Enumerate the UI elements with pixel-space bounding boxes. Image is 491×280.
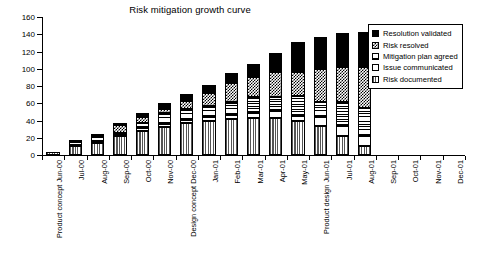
bar-segment[interactable] (136, 117, 149, 123)
bar-segment[interactable] (314, 102, 327, 117)
bar-segment[interactable] (69, 146, 82, 155)
bar-segment[interactable] (291, 72, 304, 96)
bar-segment[interactable] (247, 64, 260, 76)
legend-item[interactable]: Risk documented (372, 74, 458, 85)
x-axis-tick-label: Mar-01 (257, 160, 264, 183)
bar-segment[interactable] (269, 111, 282, 118)
bar-segment[interactable] (247, 77, 260, 98)
bar[interactable] (69, 141, 82, 155)
bar-segment[interactable] (136, 123, 149, 128)
bar-segment[interactable] (180, 94, 193, 101)
bar[interactable] (180, 94, 193, 155)
bar-segment[interactable] (113, 136, 126, 155)
bar-segment[interactable] (336, 33, 349, 67)
bar[interactable] (158, 103, 171, 155)
bar-segment[interactable] (91, 134, 104, 136)
bar-segment[interactable] (202, 93, 215, 106)
bar[interactable] (336, 33, 349, 155)
bar-segment[interactable] (225, 73, 238, 83)
x-axis-tick-label: Jan-01 (212, 160, 219, 183)
bar-segment[interactable] (291, 42, 304, 72)
bar[interactable] (136, 113, 149, 155)
bar-segment[interactable] (180, 123, 193, 155)
bar-segment[interactable] (158, 103, 171, 109)
bar-segment[interactable] (136, 128, 149, 131)
bar[interactable] (91, 135, 104, 155)
bar-segment[interactable] (225, 83, 238, 101)
bar-segment[interactable] (113, 123, 126, 125)
bar-segment[interactable] (180, 101, 193, 110)
bar-segment[interactable] (69, 142, 82, 145)
x-axis-tick-label: Nov-00 (167, 160, 174, 184)
x-axis-labels: Product concept Jun-00Jul-00Aug-00Sep-00… (42, 160, 465, 278)
bar-segment[interactable] (158, 113, 171, 124)
x-axis-tick (465, 156, 466, 160)
bar[interactable] (269, 53, 282, 155)
bar-segment[interactable] (158, 109, 171, 112)
bar-segment[interactable] (225, 119, 238, 155)
legend-label: Issue communicated (383, 63, 453, 72)
legend-swatch (372, 76, 379, 83)
bar-segment[interactable] (358, 136, 371, 145)
bar-segment[interactable] (136, 131, 149, 155)
x-axis-tick-label: May-01 (301, 160, 308, 185)
bar-segment[interactable] (202, 85, 215, 93)
bar[interactable] (247, 64, 260, 155)
bar-segment[interactable] (247, 118, 260, 155)
bar[interactable] (46, 152, 59, 155)
bar[interactable] (291, 42, 304, 155)
bar-segment[interactable] (202, 121, 215, 156)
x-axis-tick-label: Aug-00 (101, 160, 108, 184)
x-axis-tick-label: Apr-01 (279, 160, 286, 182)
bar-segment[interactable] (46, 152, 59, 155)
bar-segment[interactable] (180, 120, 193, 123)
bar-segment[interactable] (336, 67, 349, 102)
bar-segment[interactable] (336, 102, 349, 125)
bar-segment[interactable] (225, 115, 238, 118)
bar-segment[interactable] (336, 126, 349, 136)
bar-segment[interactable] (336, 136, 349, 155)
x-axis-tick-label: Oct-00 (145, 160, 152, 182)
bar-segment[interactable] (225, 102, 238, 116)
bar[interactable] (314, 37, 327, 155)
legend-item[interactable]: Risk resolved (372, 39, 458, 50)
bar-segment[interactable] (358, 108, 371, 136)
bar-segment[interactable] (291, 96, 304, 116)
bar-segment[interactable] (314, 69, 327, 103)
bar-segment[interactable] (91, 143, 104, 155)
bar-segment[interactable] (247, 97, 260, 113)
bar-segment[interactable] (180, 109, 193, 119)
legend-item[interactable]: Issue communicated (372, 62, 458, 73)
bar-segment[interactable] (158, 127, 171, 155)
bar-segment[interactable] (269, 72, 282, 97)
bar-segment[interactable] (314, 117, 327, 126)
bar[interactable] (225, 73, 238, 155)
legend-swatch (372, 64, 379, 71)
legend-label: Mitigation plan agreed (383, 52, 458, 61)
bar-segment[interactable] (269, 53, 282, 72)
bar-segment[interactable] (358, 146, 371, 155)
x-axis-tick-label: Oct-01 (412, 160, 419, 182)
bar-segment[interactable] (269, 118, 282, 155)
bar-segment[interactable] (91, 136, 104, 142)
bar-segment[interactable] (136, 113, 149, 117)
y-axis-tick-label: 60 (26, 99, 35, 108)
bar-segment[interactable] (113, 134, 126, 136)
bar-segment[interactable] (314, 126, 327, 155)
bar-segment[interactable] (113, 132, 126, 134)
bar-segment[interactable] (202, 106, 215, 117)
bar-segment[interactable] (291, 116, 304, 121)
x-axis-tick-label: Product concept Jun-00 (56, 160, 63, 238)
bar[interactable] (202, 85, 215, 155)
bar-segment[interactable] (291, 121, 304, 155)
bar-segment[interactable] (269, 97, 282, 111)
bar-segment[interactable] (158, 124, 171, 127)
bar-segment[interactable] (69, 140, 82, 142)
bar-segment[interactable] (202, 117, 215, 120)
legend-item[interactable]: Resolution validated (372, 28, 458, 39)
bar-segment[interactable] (247, 113, 260, 118)
legend-item[interactable]: Mitigation plan agreed (372, 51, 458, 62)
bar-segment[interactable] (113, 125, 126, 133)
bar-segment[interactable] (314, 37, 327, 69)
bar[interactable] (113, 124, 126, 155)
